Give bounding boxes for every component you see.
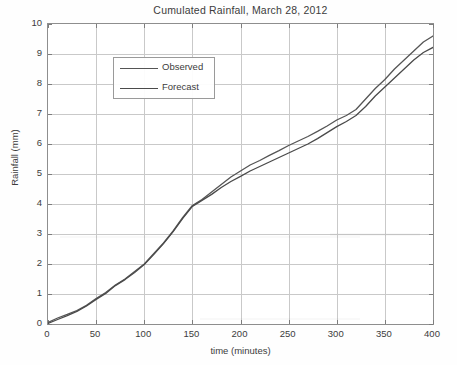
page-title: Cumulated Rainfall, March 28, 2012 [47, 4, 434, 16]
legend-label-forecast: Forecast [162, 81, 199, 92]
x-tick-label: 300 [316, 328, 356, 339]
y-tick-label: 10 [14, 17, 42, 28]
y-tick-label: 0 [14, 317, 42, 328]
figure-canvas: Cumulated Rainfall, March 28, 2012 Obser… [0, 0, 457, 365]
x-tick-label: 200 [220, 328, 260, 339]
y-tick-label: 3 [14, 227, 42, 238]
x-tick-label: 250 [268, 328, 308, 339]
legend-swatch-observed [120, 68, 158, 69]
x-tick-label: 0 [27, 328, 67, 339]
series-lines [48, 24, 433, 324]
legend-item-observed[interactable]: Observed [114, 58, 214, 79]
x-tick-label: 350 [364, 328, 404, 339]
x-tick-mark [433, 320, 434, 324]
y-axis-label: Rainfall (mm) [9, 108, 20, 208]
y-tick-label: 2 [14, 257, 42, 268]
plot-area: Observed Forecast [47, 23, 434, 325]
series-line-observed [48, 36, 433, 323]
legend-item-forecast[interactable]: Forecast [114, 78, 214, 99]
x-tick-label: 100 [123, 328, 163, 339]
y-tick-label: 8 [14, 77, 42, 88]
y-tick-mark-right [429, 324, 433, 325]
legend-label-observed: Observed [162, 61, 203, 72]
legend: Observed Forecast [113, 57, 215, 99]
x-tick-mark-top [433, 24, 434, 28]
x-tick-label: 400 [412, 328, 452, 339]
y-tick-mark [48, 324, 52, 325]
y-tick-label: 1 [14, 287, 42, 298]
legend-swatch-forecast [120, 88, 158, 89]
x-tick-label: 50 [75, 328, 115, 339]
x-axis-label: time (minutes) [47, 345, 434, 356]
x-tick-label: 150 [171, 328, 211, 339]
y-tick-label: 9 [14, 47, 42, 58]
